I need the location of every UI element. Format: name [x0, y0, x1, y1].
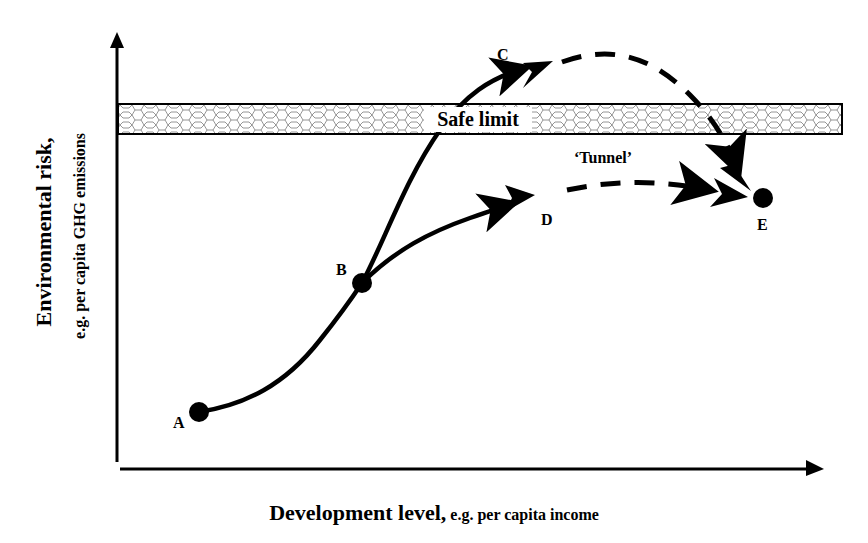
point-a-marker	[189, 402, 209, 422]
point-b-marker	[352, 273, 372, 293]
path-a-to-b	[199, 283, 362, 412]
point-e-label: E	[757, 217, 768, 233]
y-axis-label: Environmental risk, e.g. per capita GHG …	[0, 0, 100, 543]
y-axis	[110, 32, 124, 462]
environmental-kuznets-diagram: Safe limit ‘Tunnel’ A B C D E Environmen…	[0, 0, 868, 543]
diagram-canvas	[0, 0, 868, 543]
path-d-to-e	[567, 183, 710, 191]
path-b-to-c	[362, 68, 525, 283]
point-markers	[189, 188, 773, 422]
x-axis-subtitle: e.g. per capita income	[450, 506, 599, 523]
arrowheads	[505, 61, 751, 212]
point-b-label: B	[336, 262, 347, 278]
y-axis-title: Environmental risk,	[31, 137, 57, 326]
point-e-marker	[753, 188, 773, 208]
point-d-label: D	[541, 212, 553, 228]
arrowhead-d-icon	[505, 185, 535, 212]
safe-limit-label: Safe limit	[424, 107, 532, 132]
x-axis-arrow-icon	[806, 460, 824, 476]
x-axis-label: Development level, e.g. per capita incom…	[0, 500, 868, 526]
y-axis-subtitle: e.g. per capita GHG emissions	[71, 133, 89, 339]
x-axis-title: Development level,	[269, 500, 446, 525]
point-c-label: C	[497, 47, 509, 63]
point-a-label: A	[173, 415, 185, 431]
arrowhead-c-icon	[523, 61, 553, 88]
x-axis	[120, 460, 824, 476]
tunnel-label: ‘Tunnel’	[574, 150, 632, 166]
y-axis-arrow-icon	[110, 32, 124, 48]
path-b-to-d	[362, 204, 512, 283]
